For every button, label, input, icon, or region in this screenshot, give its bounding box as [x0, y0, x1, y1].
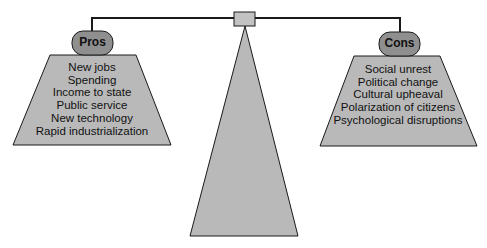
pros-list: New jobs Spending Income to state Public…: [22, 61, 162, 137]
cons-item: Polarization of citizens: [328, 101, 468, 114]
cons-item: Social unrest: [328, 63, 468, 76]
cons-item: Psychological disruptions: [328, 114, 468, 127]
pros-item: New technology: [22, 112, 162, 125]
pros-label: Pros: [72, 31, 113, 54]
balance-scale-diagram: Pros Cons New jobs Spending Income to st…: [0, 0, 487, 248]
pivot-box: [234, 12, 255, 26]
pros-item: Public service: [22, 99, 162, 112]
cons-item: Political change: [328, 76, 468, 89]
cons-list: Social unrest Political change Cultural …: [328, 63, 468, 127]
pros-item: New jobs: [22, 61, 162, 74]
pros-item: Income to state: [22, 86, 162, 99]
cons-label: Cons: [379, 32, 420, 55]
fulcrum-stand: [190, 26, 298, 236]
cons-item: Cultural upheaval: [328, 88, 468, 101]
pros-item: Rapid industrialization: [22, 125, 162, 138]
pros-item: Spending: [22, 74, 162, 87]
